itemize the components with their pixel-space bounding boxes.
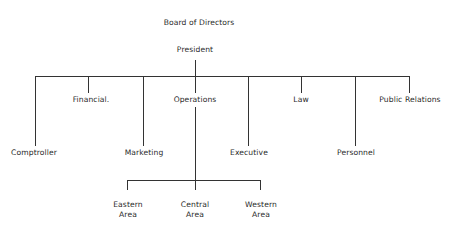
board-of-directors-label: Board of Directors xyxy=(164,18,235,28)
personnel-connector xyxy=(355,76,356,146)
western-area-label: Western Area xyxy=(245,200,277,220)
law-label: Law xyxy=(293,95,308,105)
financial-connector xyxy=(88,76,89,93)
operations-sub-connector xyxy=(195,107,196,180)
public-relations-connector xyxy=(409,76,410,93)
eastern-line1: Eastern xyxy=(113,200,143,210)
executive-label: Executive xyxy=(230,148,268,158)
central-connector xyxy=(195,180,196,190)
marketing-connector xyxy=(143,76,144,146)
financial-label: Financial. xyxy=(73,95,110,105)
central-area-label: Central Area xyxy=(181,200,209,220)
law-connector xyxy=(301,76,302,93)
western-line2: Area xyxy=(245,210,277,220)
central-line2: Area xyxy=(181,210,209,220)
comptroller-connector xyxy=(35,76,36,146)
area-branch-line xyxy=(127,180,261,181)
western-line1: Western xyxy=(245,200,277,210)
public-relations-label: Public Relations xyxy=(379,95,440,105)
operations-connector xyxy=(195,76,196,93)
eastern-connector xyxy=(127,180,128,190)
eastern-area-label: Eastern Area xyxy=(113,200,143,220)
operations-label: Operations xyxy=(174,95,217,105)
marketing-label: Marketing xyxy=(125,148,164,158)
central-line1: Central xyxy=(181,200,209,210)
western-connector xyxy=(260,180,261,190)
president-label: President xyxy=(177,45,213,55)
eastern-line2: Area xyxy=(113,210,143,220)
main-branch-line xyxy=(35,76,410,77)
comptroller-label: Comptroller xyxy=(11,148,57,158)
president-connector xyxy=(195,60,196,76)
personnel-label: Personnel xyxy=(337,148,375,158)
executive-connector xyxy=(248,76,249,146)
